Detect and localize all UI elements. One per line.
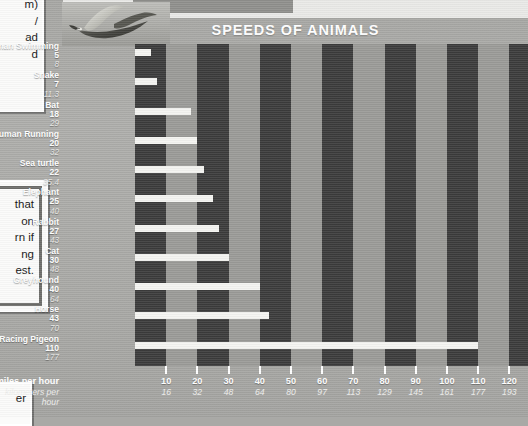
category-label: Snake711.3: [34, 71, 59, 99]
category-name: Human Swimming: [0, 42, 59, 51]
value-mph: 43: [35, 314, 59, 324]
axis-tick-label-kmh: 32: [193, 387, 203, 397]
chart-title-bar: SPEEDS OF ANIMALS: [63, 18, 528, 44]
value-kmh: 40: [23, 207, 59, 217]
value-mph: 7: [34, 80, 59, 90]
axis-tick-label-mph: 80: [379, 376, 389, 386]
value-mph: 20: [0, 139, 59, 149]
value-kmh: 8: [0, 60, 59, 70]
axis-tick-label-mph: 100: [439, 376, 454, 386]
category-label: Rabbit2743: [32, 218, 59, 246]
value-mph: 22: [20, 168, 59, 178]
category-label: Cat3048: [45, 247, 59, 275]
axis-tick: [446, 366, 448, 374]
bar: [135, 254, 229, 261]
axis-tick-label-kmh: 161: [440, 387, 454, 397]
axis-tick: [415, 366, 417, 374]
value-kmh: 48: [45, 265, 59, 275]
value-mph: 25: [23, 197, 59, 207]
bar: [135, 312, 269, 319]
value-mph: 40: [13, 285, 59, 295]
axis-tick-label-mph: 60: [317, 376, 327, 386]
callout-top-line-1: /: [0, 13, 38, 30]
bar: [135, 166, 204, 173]
category-label: Sea turtle2235.4: [20, 159, 59, 187]
axis-tick-label-kmh: 80: [286, 387, 296, 397]
category-label: Greyhound4064: [13, 276, 59, 304]
axis-tick-label-mph: 30: [223, 376, 233, 386]
axis-tick-label-mph: 20: [192, 376, 202, 386]
category-label: Human Running2032: [0, 130, 59, 158]
category-label: Elephant2540: [23, 188, 59, 216]
value-kmh: 177: [0, 353, 59, 363]
bar: [135, 137, 197, 144]
axis-tick-label-kmh: 113: [346, 387, 360, 397]
category-label: Human Swimming58: [0, 42, 59, 70]
axis-tick: [384, 366, 386, 374]
axis-tick-label-kmh: 145: [409, 387, 423, 397]
bar: [135, 108, 191, 115]
axis-tick: [228, 366, 230, 374]
bar: [135, 225, 219, 232]
value-kmh: 43: [32, 236, 59, 246]
value-kmh: 11.3: [34, 90, 59, 100]
axis-tick-label-mph: 10: [161, 376, 171, 386]
speeds-of-animals-figure: SPEEDS OF ANIMALS Human Swimming58Snake7…: [63, 18, 528, 418]
axis-tick-label-mph: 90: [411, 376, 421, 386]
axis-tick-label-kmh: 16: [161, 387, 171, 397]
category-label: Horse4370: [35, 305, 59, 333]
axis-tick-label-kmh: 177: [471, 387, 485, 397]
axis-tick-label-mph: 40: [255, 376, 265, 386]
value-kmh: 35.4: [20, 178, 59, 188]
value-kmh: 32: [0, 148, 59, 158]
axis-tick: [165, 366, 167, 374]
value-kmh: 64: [13, 295, 59, 305]
value-mph: 27: [32, 227, 59, 237]
value-kmh: 70: [35, 324, 59, 334]
category-label: Bat1829: [45, 101, 59, 129]
axis-tick-label-kmh: 48: [224, 387, 234, 397]
axis-tick: [508, 366, 510, 374]
axis-tick-label-mph: 50: [286, 376, 296, 386]
category-label-column: Human Swimming58Snake711.3Bat1829Human R…: [0, 44, 61, 366]
x-axis: 1016203230484064508060977011380129901451…: [135, 366, 528, 406]
axis-label-kmh: kilometers per hour: [0, 387, 59, 407]
value-mph: 110: [0, 344, 59, 354]
axis-tick-label-kmh: 64: [255, 387, 265, 397]
bar-rows: [135, 44, 528, 366]
axis-tick: [352, 366, 354, 374]
callout-top-line-0: m): [0, 0, 38, 13]
axis-tick: [477, 366, 479, 374]
bar: [135, 283, 260, 290]
category-label: Racing Pigeon110177: [0, 335, 59, 363]
axis-tick: [321, 366, 323, 374]
axis-tick-label-kmh: 193: [502, 387, 516, 397]
axis-tick: [196, 366, 198, 374]
value-mph: 30: [45, 256, 59, 266]
axis-label-mph: miles per hour: [0, 376, 59, 386]
axis-tick-label-mph: 120: [502, 376, 517, 386]
axis-tick-label-mph: 110: [471, 376, 486, 386]
value-kmh: 29: [45, 119, 59, 129]
axis-tick: [290, 366, 292, 374]
chart-plot-area: [135, 44, 528, 366]
axis-tick-label-kmh: 97: [317, 387, 327, 397]
bar: [135, 342, 478, 349]
axis-tick: [259, 366, 261, 374]
bar: [135, 49, 151, 56]
bar: [135, 195, 213, 202]
bar: [135, 78, 157, 85]
chart-title: SPEEDS OF ANIMALS: [63, 22, 528, 38]
value-mph: 18: [45, 110, 59, 120]
axis-tick-label-mph: 70: [348, 376, 358, 386]
axis-tick-label-kmh: 129: [377, 387, 391, 397]
value-mph: 5: [0, 51, 59, 61]
